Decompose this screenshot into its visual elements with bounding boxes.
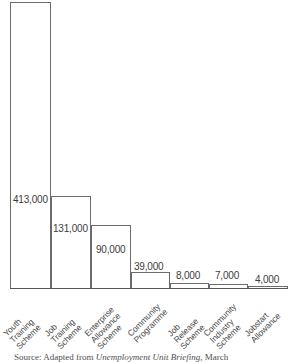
value-label-community-industry-scheme: 7,000 — [215, 271, 239, 281]
x-label-jobstart-allowance: Jobstart Allowance — [243, 305, 283, 345]
x-axis-category-labels: Youth Training Scheme Job Training Schem… — [0, 288, 288, 350]
x-label-community-industry-scheme: Community Industry Scheme — [202, 302, 251, 351]
plot-area: 413,000 131,000 90,000 39,000 8,000 7,00… — [0, 0, 288, 292]
value-label-enterprise-allowance-scheme: 90,000 — [96, 245, 125, 255]
source-caption: Source: Adapted from Unemployment Unit B… — [14, 352, 288, 362]
value-label-job-release-scheme: 8,000 — [176, 271, 200, 281]
caption-suffix: , March — [200, 352, 228, 362]
x-label-community-programme: Community Programme — [126, 301, 170, 345]
bar-youth-training-scheme — [10, 2, 51, 289]
value-label-community-programme: 39,000 — [134, 262, 163, 272]
bar-community-programme — [131, 272, 170, 289]
x-label-youth-training-scheme: Youth Training Scheme — [2, 310, 43, 351]
x-label-job-training-scheme: Job Training Scheme — [43, 310, 84, 351]
bar-enterprise-allowance-scheme — [91, 225, 131, 289]
value-label-youth-training-scheme: 413,000 — [13, 195, 48, 205]
bar-chart-figure: 413,000 131,000 90,000 39,000 8,000 7,00… — [0, 0, 288, 362]
value-label-job-training-scheme: 131,000 — [53, 224, 88, 234]
bar-job-training-scheme — [51, 196, 91, 289]
value-label-jobstart-allowance: 4,000 — [255, 275, 279, 285]
caption-publication-title: Unemployment Unit Briefing — [96, 352, 200, 362]
caption-prefix: Source: Adapted from — [14, 352, 96, 362]
x-label-enterprise-allowance-scheme: Enterprise Allowance Scheme — [83, 305, 129, 351]
